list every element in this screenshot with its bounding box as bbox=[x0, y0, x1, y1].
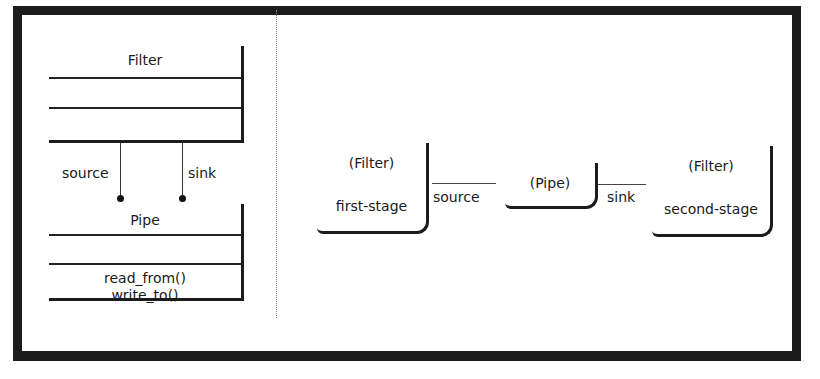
object-pipe: (Pipe) bbox=[505, 163, 598, 209]
object-first-stage-name: first-stage bbox=[317, 198, 426, 214]
object-first-stage-type: (Filter) bbox=[317, 155, 426, 171]
link-source-label: source bbox=[433, 189, 480, 205]
operation-read-from: read_from() bbox=[49, 270, 241, 287]
filter-class-name: Filter bbox=[49, 52, 241, 68]
pipe-attributes-divider bbox=[49, 234, 241, 236]
source-association-line bbox=[120, 143, 121, 198]
dotted-divider bbox=[276, 10, 277, 318]
pipe-operations-divider bbox=[49, 263, 241, 265]
object-second-stage: (Filter) second-stage bbox=[652, 146, 773, 237]
sink-role-label: sink bbox=[188, 165, 216, 181]
filter-operations-divider bbox=[49, 107, 241, 109]
link-source-line bbox=[432, 183, 496, 184]
source-role-label: source bbox=[62, 165, 109, 181]
sink-association-line bbox=[182, 143, 183, 198]
sink-association-end-dot bbox=[179, 195, 186, 202]
filter-class-box: Filter bbox=[49, 46, 244, 143]
pipe-class-box: Pipe read_from() write_to() bbox=[49, 204, 244, 301]
object-second-stage-type: (Filter) bbox=[652, 158, 770, 174]
pipe-class-name: Pipe bbox=[49, 212, 241, 228]
filter-attributes-divider bbox=[49, 77, 241, 79]
object-pipe-type: (Pipe) bbox=[505, 175, 595, 191]
link-sink-label: sink bbox=[607, 189, 635, 205]
link-sink-line bbox=[598, 184, 646, 185]
object-first-stage: (Filter) first-stage bbox=[317, 143, 429, 234]
source-association-end-dot bbox=[117, 195, 124, 202]
object-second-stage-name: second-stage bbox=[652, 201, 770, 217]
operation-write-to: write_to() bbox=[49, 287, 241, 304]
